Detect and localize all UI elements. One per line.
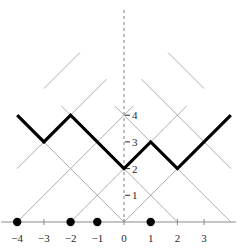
x-tick-label: 0: [121, 233, 127, 244]
x-tick-label: −2: [65, 233, 77, 244]
number-line-marker: [66, 218, 74, 226]
lattice-up-diagonal: [17, 106, 133, 222]
lattice-up-diagonal: [44, 52, 80, 88]
x-tick-label: −1: [91, 233, 103, 244]
y-tick-label: 3: [132, 136, 138, 147]
x-tick-label: 2: [175, 233, 181, 244]
x-tick-label: −3: [38, 233, 50, 244]
y-tick-label: 4: [132, 110, 138, 121]
figure-canvas: [0, 0, 248, 251]
lattice-down-diagonal: [141, 79, 230, 168]
number-line-marker: [13, 218, 21, 226]
x-tick-label: 1: [148, 233, 154, 244]
x-tick-label: 3: [201, 233, 207, 244]
y-tick-label: 1: [132, 190, 138, 201]
lattice-down-diagonal: [168, 52, 204, 88]
y-tick-label: 2: [132, 163, 138, 174]
horizontal-axis-group: [1, 219, 236, 225]
lattice-path-figure: −4−3−2−101231234: [0, 0, 248, 251]
lattice-down-diagonal: [44, 142, 124, 222]
number-line-marker: [147, 218, 155, 226]
x-tick-label: −4: [11, 233, 23, 244]
number-line-marker: [93, 218, 101, 226]
